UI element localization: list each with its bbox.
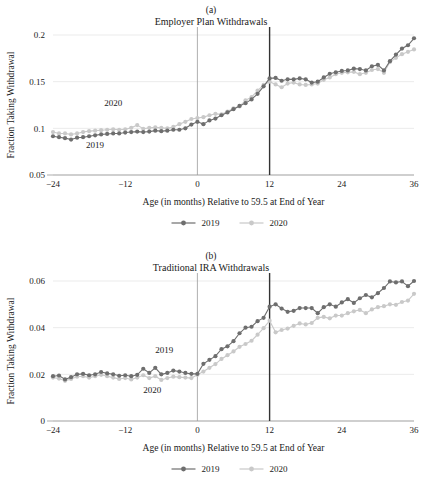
data-point bbox=[243, 325, 247, 329]
data-point bbox=[129, 130, 133, 134]
data-point bbox=[340, 313, 344, 317]
data-point bbox=[57, 373, 61, 377]
data-point bbox=[298, 321, 302, 325]
panel-b-letter: (b) bbox=[0, 251, 422, 262]
legend-swatch-marker bbox=[181, 466, 186, 471]
x-axis-title: Age (in months) Relative to 59.5 at End … bbox=[143, 443, 326, 454]
data-point bbox=[310, 80, 314, 84]
x-tick-label: 36 bbox=[410, 179, 420, 189]
data-point bbox=[364, 68, 368, 72]
data-point bbox=[358, 67, 362, 71]
annotation-2020: 2020 bbox=[143, 384, 162, 394]
data-point bbox=[268, 76, 272, 80]
data-point bbox=[358, 72, 362, 76]
legend-item-2020[interactable]: 2020 bbox=[240, 464, 289, 474]
data-point bbox=[370, 307, 374, 311]
legend-item-2019[interactable]: 2019 bbox=[172, 464, 221, 474]
data-point bbox=[328, 316, 332, 320]
data-point bbox=[298, 306, 302, 310]
data-point bbox=[274, 76, 278, 80]
data-point bbox=[231, 107, 235, 111]
data-point bbox=[135, 373, 139, 377]
data-point bbox=[243, 342, 247, 346]
data-point bbox=[286, 310, 290, 314]
data-point bbox=[249, 97, 253, 101]
panel-b-title: Traditional IRA Withdrawals bbox=[0, 262, 422, 273]
data-point bbox=[183, 120, 187, 124]
data-point bbox=[159, 129, 163, 133]
data-point bbox=[57, 131, 61, 135]
data-point bbox=[388, 279, 392, 283]
data-point bbox=[376, 67, 380, 71]
legend-item-2020[interactable]: 2020 bbox=[240, 218, 289, 228]
y-axis-title: Fraction Taking Withdrawal bbox=[6, 297, 16, 404]
data-point bbox=[171, 374, 175, 378]
data-point bbox=[117, 131, 121, 135]
data-point bbox=[93, 128, 97, 132]
legend-label: 2019 bbox=[202, 464, 221, 474]
data-point bbox=[334, 313, 338, 317]
data-point bbox=[207, 358, 211, 362]
data-point bbox=[51, 374, 55, 378]
data-point bbox=[207, 118, 211, 122]
data-point bbox=[280, 78, 284, 82]
annotation-2020: 2020 bbox=[104, 98, 123, 108]
annotation-2019: 2019 bbox=[86, 140, 105, 150]
data-point bbox=[394, 280, 398, 284]
data-point bbox=[189, 117, 193, 121]
panel-a: (a) Employer Plan Withdrawals 0.050.10.1… bbox=[0, 0, 422, 247]
data-point bbox=[99, 132, 103, 136]
data-point bbox=[358, 308, 362, 312]
data-point bbox=[207, 113, 211, 117]
data-point bbox=[99, 128, 103, 132]
data-point bbox=[51, 130, 55, 134]
data-point bbox=[394, 52, 398, 56]
data-point bbox=[346, 297, 350, 301]
data-point bbox=[195, 120, 199, 124]
data-point bbox=[352, 309, 356, 313]
data-point bbox=[189, 372, 193, 376]
data-point bbox=[219, 357, 223, 361]
data-point bbox=[292, 77, 296, 81]
panel-b: (b) Traditional IRA Withdrawals 00.020.0… bbox=[0, 247, 422, 494]
data-point bbox=[388, 59, 392, 63]
data-point bbox=[69, 132, 73, 136]
data-point bbox=[183, 375, 187, 379]
legend-item-2019[interactable]: 2019 bbox=[172, 218, 221, 228]
data-point bbox=[177, 375, 181, 379]
data-point bbox=[340, 69, 344, 73]
y-tick-label: 0.1 bbox=[34, 123, 45, 133]
data-point bbox=[237, 331, 241, 335]
data-point bbox=[153, 366, 157, 370]
data-point bbox=[171, 127, 175, 131]
data-point bbox=[298, 76, 302, 80]
data-point bbox=[352, 66, 356, 70]
data-point bbox=[274, 330, 278, 334]
data-point bbox=[406, 43, 410, 47]
x-tick-label: 36 bbox=[410, 425, 420, 435]
data-point bbox=[195, 116, 199, 120]
x-tick-label: −12 bbox=[118, 425, 132, 435]
data-point bbox=[261, 84, 265, 88]
data-point bbox=[316, 316, 320, 320]
data-point bbox=[117, 127, 121, 131]
data-point bbox=[304, 306, 308, 310]
data-point bbox=[364, 311, 368, 315]
x-tick-label: −12 bbox=[118, 179, 132, 189]
data-point bbox=[412, 36, 416, 40]
data-point bbox=[201, 362, 205, 366]
x-tick-label: 0 bbox=[195, 179, 200, 189]
data-point bbox=[159, 372, 163, 376]
data-point bbox=[225, 344, 229, 348]
data-point bbox=[376, 63, 380, 67]
series-path-2020 bbox=[53, 49, 414, 134]
data-point bbox=[322, 315, 326, 319]
data-point bbox=[382, 68, 386, 72]
data-point bbox=[213, 112, 217, 116]
data-point bbox=[412, 47, 416, 51]
data-point bbox=[268, 304, 272, 308]
data-point bbox=[75, 135, 79, 139]
data-point bbox=[75, 372, 79, 376]
data-point bbox=[81, 372, 85, 376]
annotation-2019: 2019 bbox=[155, 345, 174, 355]
